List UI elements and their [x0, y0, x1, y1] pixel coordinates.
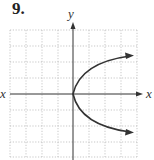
curve-arrow-bottom-icon: [125, 129, 134, 136]
curve-arrow-top-icon: [125, 53, 134, 60]
parabola-graph: y x x: [0, 0, 154, 160]
x-axis-label-left: x: [0, 86, 6, 101]
y-axis-arrow-icon: [71, 22, 76, 29]
x-axis-label-right: x: [145, 86, 152, 101]
x-axis-arrow-icon: [136, 92, 143, 97]
y-axis-label: y: [66, 6, 74, 21]
